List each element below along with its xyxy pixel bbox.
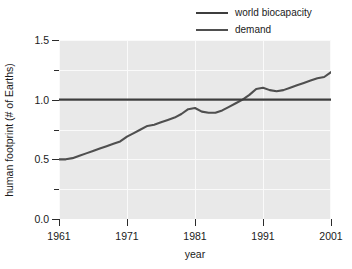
y-axis-title: human footprint (# of Earths) [2, 40, 16, 219]
legend-item-demand: demand [196, 23, 348, 36]
y-axis-tick-label: 0.0 [34, 213, 49, 225]
y-axis-minor-tick [54, 189, 59, 190]
x-axis-tick-label: 1971 [115, 230, 138, 242]
x-axis-tick-label: 1961 [47, 230, 70, 242]
y-axis-tick [52, 100, 59, 101]
x-axis-tick [127, 219, 128, 226]
legend-label-world-biocapacity: world biocapacity [235, 7, 312, 18]
plot-area [59, 40, 331, 219]
y-axis-title-text: human footprint (# of Earths) [3, 63, 15, 197]
legend-item-world-biocapacity: world biocapacity [196, 6, 348, 19]
legend-swatch-world-biocapacity [196, 12, 228, 14]
plot-region: 0.00.51.01.5 19611971198119912001 [59, 40, 331, 219]
y-axis-tick [52, 219, 59, 220]
series-layer [59, 40, 331, 219]
y-axis-tick [52, 40, 59, 41]
y-axis-minor-tick [54, 130, 59, 131]
y-axis-tick-label: 0.5 [34, 153, 49, 165]
x-axis-tick-label: 1991 [251, 230, 274, 242]
chart-figure: world biocapacity demand 0.00.51.01.5 19… [0, 0, 352, 269]
x-axis-tick-label: 1981 [183, 230, 206, 242]
y-axis-tick-label: 1.5 [34, 34, 49, 46]
x-axis-tick [331, 219, 332, 226]
y-axis-tick [52, 159, 59, 160]
x-axis-tick-label: 2001 [319, 230, 342, 242]
y-axis-minor-tick [54, 70, 59, 71]
x-axis-tick [59, 219, 60, 226]
x-axis-tick [263, 219, 264, 226]
legend-swatch-demand [196, 29, 228, 31]
chart-legend: world biocapacity demand [196, 6, 348, 36]
line-demand [59, 72, 331, 159]
x-axis-tick [195, 219, 196, 226]
x-axis-title: year [59, 248, 331, 260]
legend-label-demand: demand [235, 24, 271, 35]
y-axis-tick-label: 1.0 [34, 94, 49, 106]
